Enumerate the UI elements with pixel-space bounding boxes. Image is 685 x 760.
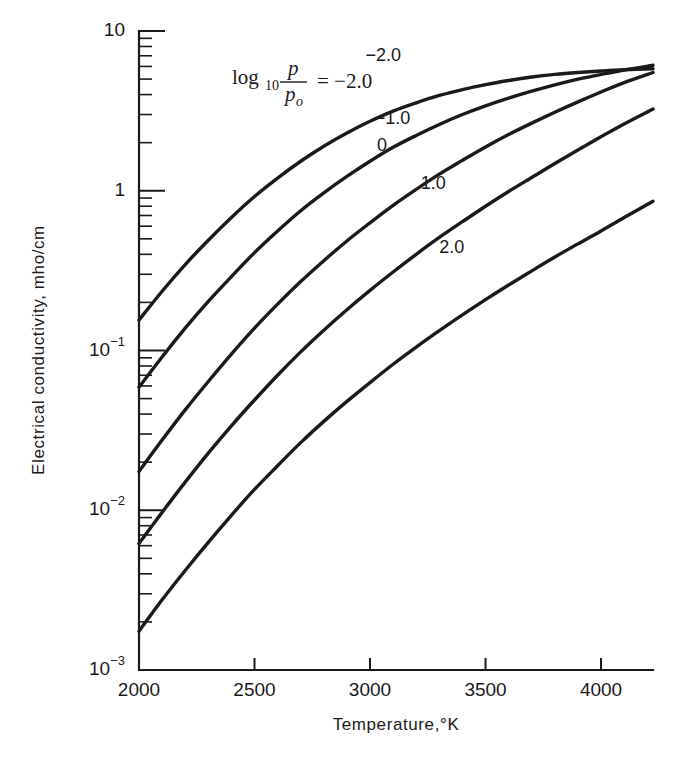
- x-axis-title: Temperature,°K: [333, 715, 460, 734]
- y-tick-label: 10−1: [89, 334, 125, 360]
- conductivity-vs-temperature-chart: 10110−110−210−3 20002500300035004000 −2.…: [0, 0, 685, 760]
- curve-label-2-0: 2.0: [439, 237, 464, 257]
- x-tick-label: 2500: [233, 679, 275, 700]
- y-tick-label: 1: [114, 179, 125, 200]
- curve-1-0: [139, 109, 653, 543]
- x-axis-ticks: [139, 658, 601, 670]
- curve-label-0: 0: [377, 135, 387, 155]
- curve--2-0: [139, 69, 653, 320]
- y-tick-label: 10: [104, 19, 125, 40]
- curve-label-1-0: 1.0: [421, 173, 446, 193]
- x-axis-tick-labels: 20002500300035004000: [118, 679, 622, 700]
- x-tick-label: 3500: [464, 679, 506, 700]
- x-tick-label: 3000: [349, 679, 391, 700]
- legend-log-prefix: log: [232, 65, 259, 89]
- y-axis-ticks: [139, 31, 165, 670]
- y-axis-title: Electrical conductivity, mho/cm: [29, 225, 48, 475]
- data-curves: [139, 65, 653, 631]
- curve-labels: −2.0−1.001.02.0: [365, 45, 464, 257]
- legend-fraction-denominator-sub: o: [296, 94, 303, 109]
- y-tick-label: 10−2: [89, 494, 125, 520]
- x-tick-label: 2000: [118, 679, 160, 700]
- legend-fraction-numerator: p: [286, 56, 299, 80]
- legend-annotation: log 10 p p o = −2.0: [232, 56, 372, 109]
- curve-label--1-0: −1.0: [375, 108, 411, 128]
- chart-figure: 10110−110−210−3 20002500300035004000 −2.…: [0, 0, 685, 760]
- y-tick-label: 10−3: [89, 653, 125, 679]
- legend-fraction-denominator: p: [283, 82, 296, 106]
- legend-log-base: 10: [265, 78, 279, 93]
- curve-label--2-0: −2.0: [365, 45, 401, 65]
- curve-2-0: [139, 201, 653, 631]
- curve-0: [139, 72, 653, 471]
- y-axis-tick-labels: 10110−110−210−3: [89, 19, 125, 679]
- legend-equals-value: = −2.0: [317, 69, 372, 93]
- x-tick-label: 4000: [580, 679, 622, 700]
